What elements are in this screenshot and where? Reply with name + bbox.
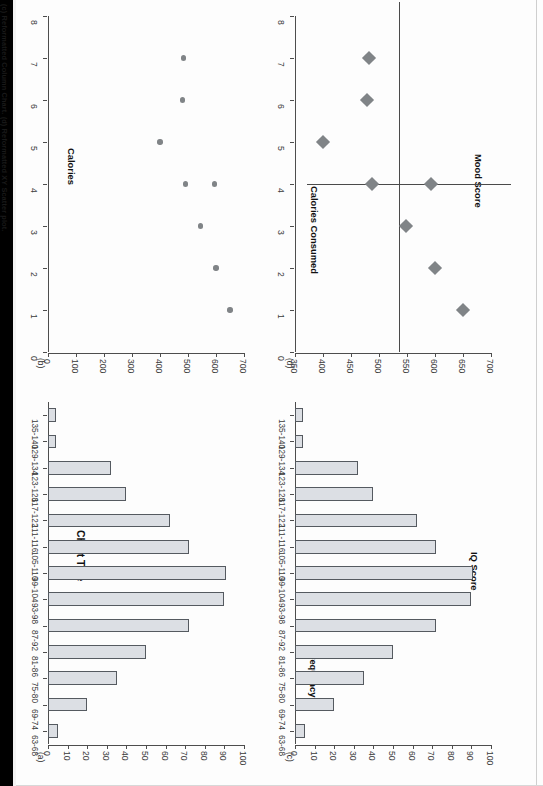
a-value-tick xyxy=(48,745,49,749)
c-value-tick-label: 50 xyxy=(387,751,397,761)
a-value-tick xyxy=(205,745,206,749)
c-value-tick xyxy=(413,745,414,749)
bar-123-128 xyxy=(48,461,111,475)
c-category-tick xyxy=(290,652,294,653)
bar-75-80 xyxy=(48,671,117,685)
d-category-tick xyxy=(290,352,294,353)
bar-105-110 xyxy=(295,540,436,554)
b-category-tick-label: 5 xyxy=(29,146,39,151)
d-value-tick-label: 600 xyxy=(429,359,439,373)
a-value-tick-label: 50 xyxy=(140,751,150,761)
a-category-tick xyxy=(43,547,47,548)
d-value-tick xyxy=(491,353,492,357)
c-category-tick xyxy=(290,678,294,679)
category-label-81-86: 81-86 xyxy=(277,656,286,677)
a-value-tick xyxy=(166,745,167,749)
c-category-tick xyxy=(290,599,294,600)
bar-123-128 xyxy=(295,461,358,475)
c-category-tick xyxy=(290,468,294,469)
b-value-tick xyxy=(132,353,133,357)
category-label-135-140: 135-140 xyxy=(277,419,286,449)
c-category-tick xyxy=(290,547,294,548)
a-value-tick xyxy=(107,745,108,749)
a-category-tick xyxy=(43,652,47,653)
a-value-tick-label: 20 xyxy=(81,751,91,761)
b-category-tick-label: 4 xyxy=(29,188,39,193)
a-category-tick xyxy=(43,494,47,495)
c-value-tick-label: 40 xyxy=(367,751,377,761)
b-data-point xyxy=(212,181,217,186)
bar-105-110 xyxy=(48,540,189,554)
c-category-tick xyxy=(290,520,294,521)
d-value-tick-label: 400 xyxy=(317,359,327,373)
c-value-tick-label: 30 xyxy=(348,751,358,761)
d-category-tick xyxy=(290,142,294,143)
d-value-tick-label: 550 xyxy=(401,359,411,373)
category-label-93-98: 93-98 xyxy=(277,603,286,624)
c-value-tick xyxy=(432,745,433,749)
bar-111-116 xyxy=(295,514,417,528)
category-label-87-92: 87-92 xyxy=(277,630,286,651)
b-data-point xyxy=(181,55,186,60)
category-label-117-122: 117-122 xyxy=(277,498,286,527)
a-category-tick xyxy=(43,731,47,732)
b-category-tick xyxy=(43,184,47,185)
a-category-tick xyxy=(43,415,47,416)
category-label-69-74: 69-74 xyxy=(30,709,39,730)
c-value-tick-label: 80 xyxy=(446,751,456,761)
d-value-tick-label: 700 xyxy=(485,359,495,373)
c-value-tick xyxy=(452,745,453,749)
b-category-tick xyxy=(43,16,47,17)
a-value-tick-label: 40 xyxy=(120,751,130,761)
b-value-tick xyxy=(48,353,49,357)
d-data-point xyxy=(362,51,376,65)
d-data-point xyxy=(428,261,442,275)
bar-87-92 xyxy=(48,619,189,633)
category-label-99-104: 99-104 xyxy=(277,577,286,603)
a-value-tick xyxy=(146,745,147,749)
a-category-tick xyxy=(43,573,47,574)
d-category-tick-label: 3 xyxy=(276,230,286,235)
d-category-tick-label: 5 xyxy=(276,146,286,151)
scan-edge-highlight xyxy=(13,0,16,786)
b-category-tick-label: 3 xyxy=(29,230,39,235)
b-category-axis-line xyxy=(48,16,49,352)
category-label-69-74: 69-74 xyxy=(277,709,286,730)
b-value-axis-line xyxy=(48,353,244,354)
d-category-tick-label: 2 xyxy=(276,272,286,277)
b-value-tick xyxy=(216,353,217,357)
a-category-tick xyxy=(43,468,47,469)
d-value-tick-label: 450 xyxy=(345,359,355,373)
c-category-tick xyxy=(290,731,294,732)
a-value-tick xyxy=(244,745,245,749)
category-label-63-68: 63-68 xyxy=(30,735,39,756)
b-value-tick-label: 500 xyxy=(182,359,192,373)
a-category-tick xyxy=(43,599,47,600)
category-label-135-140: 135-140 xyxy=(30,419,39,449)
category-label-81-86: 81-86 xyxy=(30,656,39,677)
d-data-point xyxy=(423,177,437,191)
bar-135-140 xyxy=(48,408,56,422)
b-category-tick-label: 6 xyxy=(29,104,39,109)
c-value-tick-label: 60 xyxy=(407,751,417,761)
d-value-tick xyxy=(323,353,324,357)
d-value-tick-label: 500 xyxy=(373,359,383,373)
scanned-figure-page: (c) Reformatted Column Chart. (d) Reform… xyxy=(0,0,543,786)
category-label-75-80: 75-80 xyxy=(277,682,286,703)
a-value-tick-label: 60 xyxy=(160,751,170,761)
c-value-tick xyxy=(354,745,355,749)
c-value-tick-label: 0 xyxy=(289,751,299,756)
b-data-point xyxy=(227,307,232,312)
d-category-tick-label: 8 xyxy=(276,20,286,25)
c-value-tick xyxy=(295,745,296,749)
bar-87-92 xyxy=(295,619,436,633)
c-value-tick-label: 10 xyxy=(309,751,319,761)
a-value-tick-label: 30 xyxy=(101,751,111,761)
a-value-tick-label: 80 xyxy=(199,751,209,761)
category-label-111-116: 111-116 xyxy=(30,524,39,552)
d-data-point xyxy=(316,135,330,149)
c-value-tick-label: 20 xyxy=(328,751,338,761)
category-label-111-116: 111-116 xyxy=(277,524,286,552)
a-value-tick-label: 70 xyxy=(179,751,189,761)
bar-93-98 xyxy=(295,592,471,606)
